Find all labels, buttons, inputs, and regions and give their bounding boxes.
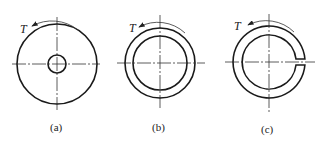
panel-label: (a)	[50, 121, 63, 134]
torque-label: T	[129, 21, 137, 35]
torque-label: T	[20, 22, 28, 36]
panel-c: T (c)	[225, 14, 315, 136]
panel-a: T (a)	[12, 17, 100, 134]
torque-label: T	[234, 19, 242, 33]
panel-label: (c)	[261, 123, 274, 136]
torsion-sections-diagram: T (a) T (b) T (c)	[0, 0, 326, 141]
panel-label: (b)	[152, 121, 165, 134]
panel-b: T (b)	[117, 15, 205, 134]
